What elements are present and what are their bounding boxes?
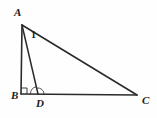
geometry-figure: A B C D 1 xyxy=(0,0,157,118)
vertex-label-b: B xyxy=(10,89,18,101)
vertex-label-a: A xyxy=(13,6,21,18)
segment-label-1: 1 xyxy=(31,29,36,40)
geometry-canvas: A B C D 1 xyxy=(0,0,157,118)
segment-ab xyxy=(21,25,22,94)
vertex-label-c: C xyxy=(142,94,150,106)
right-angle-mark-b xyxy=(21,88,27,94)
vertex-label-d: D xyxy=(35,97,44,109)
segment-ac xyxy=(22,25,137,95)
angle-arc-d-outer xyxy=(31,87,37,94)
